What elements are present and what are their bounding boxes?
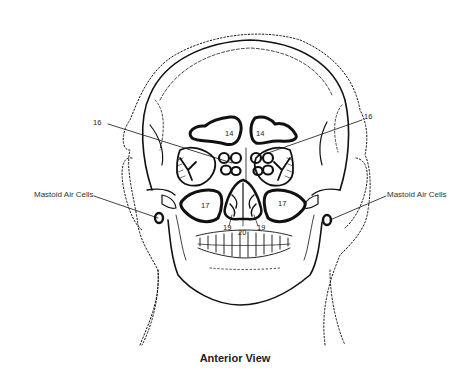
label-17-right: 17: [278, 200, 286, 208]
mastoid-left: [162, 195, 176, 209]
ethmoid-cells-left: [219, 153, 241, 175]
label-16-left: 16: [93, 119, 101, 127]
diagram-title: Anterior View: [0, 352, 470, 364]
label-20: 20: [238, 229, 246, 237]
skull-anterior-diagram: [0, 0, 470, 377]
label-17-left: 17: [201, 202, 209, 210]
label-16-right: 16: [364, 113, 372, 121]
ear-right-outline: [345, 158, 367, 228]
label-19-right: 19: [257, 224, 265, 232]
orbit-left: [177, 148, 215, 186]
label-mastoid-left: Mastoid Air Cells: [34, 191, 94, 199]
label-14-right: 14: [256, 130, 264, 138]
leader-mastoid-right: [330, 196, 386, 220]
label-19-left: 19: [223, 224, 231, 232]
leader-16-left: [108, 124, 232, 163]
frontal-sinus-left: [190, 117, 241, 145]
label-14-left: 14: [225, 130, 233, 138]
cranium-inner-line: [160, 48, 332, 100]
label-mastoid-right: Mastoid Air Cells: [387, 191, 447, 199]
